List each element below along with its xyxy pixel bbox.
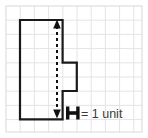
grid-figure-svg: = 1 unit [0,0,148,138]
unit-legend-label: = 1 unit [81,107,123,121]
figure-container: = 1 unit [0,0,148,138]
unit-bar-crossbar [69,111,78,115]
